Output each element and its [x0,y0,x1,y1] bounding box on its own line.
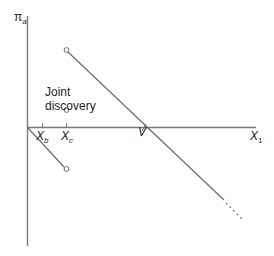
y-axis-subscript: a [22,17,26,26]
xc-subscript: c [69,136,73,145]
joint-discovery-annotation: Joint discovery [45,85,96,113]
tick-label-xb: Xb [36,130,48,145]
x-axis-label: X1 [250,130,262,145]
annotation-line-1: Joint [45,85,96,99]
xb-subscript: b [44,136,48,145]
xb-symbol: X [36,129,44,143]
lower-line-end-point [64,167,69,172]
y-axis-label: πa [14,11,27,26]
xc-symbol: X [61,129,69,143]
tick-label-xc: Xc [61,130,73,145]
diagram-canvas [0,0,274,256]
x-axis-symbol: X [250,129,258,143]
intercept-label-v: V [138,126,146,138]
x-axis-subscript: 1 [258,136,262,145]
upper-line-start-point [64,48,69,53]
upper-payoff-dashed-extension [226,203,242,219]
annotation-line-2: discovery [45,99,96,113]
